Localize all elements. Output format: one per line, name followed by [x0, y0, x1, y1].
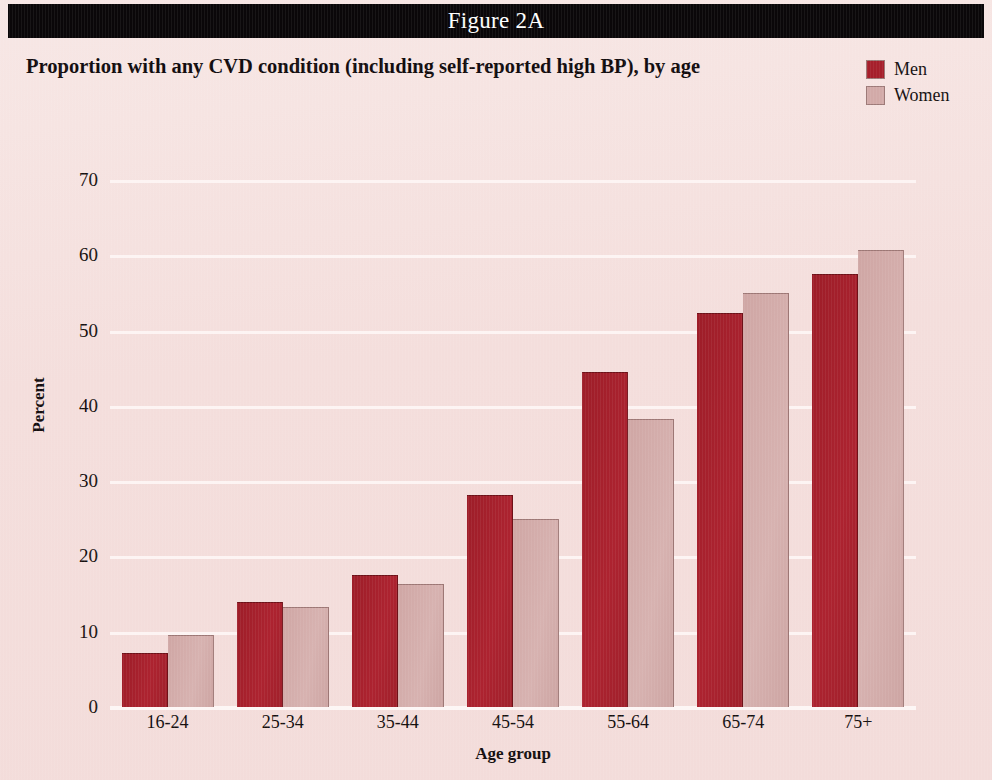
figure-container: Figure 2A Proportion with any CVD condit… [0, 0, 992, 780]
legend-label-men: Men [894, 59, 927, 80]
x-axis-tick-label: 45-54 [455, 712, 570, 742]
bar-group [686, 180, 801, 707]
bar-women-75+ [858, 250, 904, 707]
x-axis-title: Age group [110, 744, 916, 764]
x-axis-tick-label: 35-44 [340, 712, 455, 742]
bar-women-45-54 [513, 519, 559, 707]
legend-swatch-men [866, 60, 885, 79]
y-axis-tick-label: 20 [54, 545, 98, 567]
chart-legend: Men Women [866, 56, 986, 108]
x-axis-tick-label: 55-64 [571, 712, 686, 742]
y-axis-tick-label: 10 [54, 621, 98, 643]
bar-group [340, 180, 455, 707]
bar-groups [110, 180, 916, 707]
plot-area [110, 180, 916, 707]
y-axis-tick-label: 40 [54, 395, 98, 417]
legend-item-men: Men [866, 56, 986, 82]
bar-men-65-74 [697, 313, 743, 707]
bar-men-75+ [812, 274, 858, 707]
bar-men-55-64 [582, 372, 628, 707]
x-axis-tick-label: 65-74 [686, 712, 801, 742]
y-axis-tick-label: 60 [54, 244, 98, 266]
bar-men-25-34 [237, 602, 283, 707]
y-axis-tick-label: 30 [54, 470, 98, 492]
chart-title: Proportion with any CVD condition (inclu… [26, 52, 816, 80]
legend-label-women: Women [894, 85, 950, 106]
x-axis-tick-label: 16-24 [110, 712, 225, 742]
y-axis-tick-label: 50 [54, 320, 98, 342]
bar-group [225, 180, 340, 707]
y-axis-tick-label: 0 [54, 696, 98, 718]
y-axis-tick-label: 70 [54, 169, 98, 191]
bar-women-16-24 [168, 635, 214, 707]
bar-men-16-24 [122, 653, 168, 707]
x-axis: 16-2425-3435-4445-5455-6465-7475+ [110, 712, 916, 742]
bar-group [455, 180, 570, 707]
bar-men-45-54 [467, 495, 513, 707]
bar-group [571, 180, 686, 707]
bar-women-65-74 [743, 293, 789, 707]
bar-women-25-34 [283, 607, 329, 707]
bar-women-55-64 [628, 419, 674, 707]
y-axis: 010203040506070 [42, 180, 98, 707]
y-axis-title: Percent [29, 345, 49, 465]
x-axis-tick-label: 75+ [801, 712, 916, 742]
bar-group [110, 180, 225, 707]
figure-banner-title: Figure 2A [8, 4, 984, 38]
x-axis-tick-label: 25-34 [225, 712, 340, 742]
legend-item-women: Women [866, 82, 986, 108]
bar-women-35-44 [398, 584, 444, 707]
legend-swatch-women [866, 86, 885, 105]
bar-men-35-44 [352, 575, 398, 707]
bar-group [801, 180, 916, 707]
